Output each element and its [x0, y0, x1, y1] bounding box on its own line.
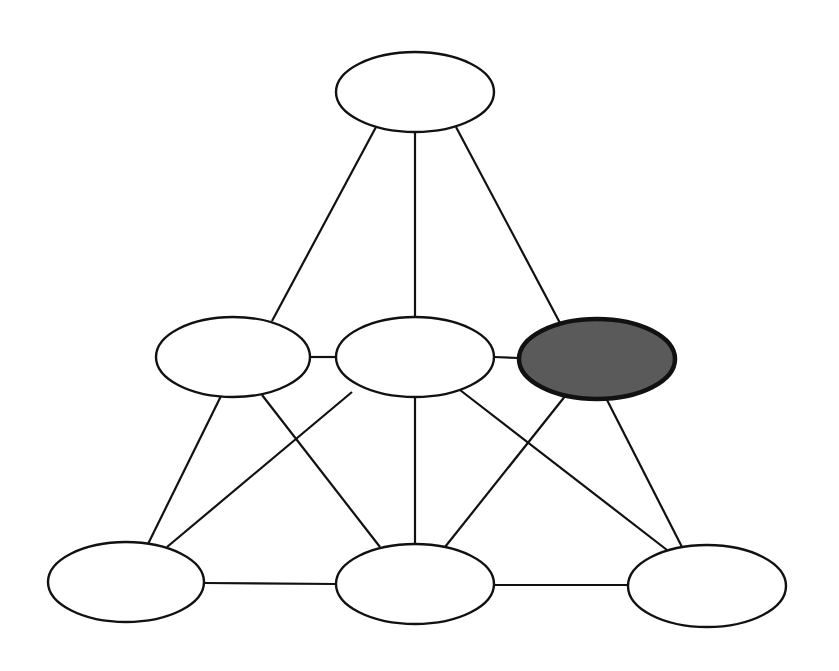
node-mid-right [519, 319, 675, 399]
diagram-canvas [0, 0, 839, 671]
node-mid-center [336, 317, 494, 397]
node-mid-left [156, 317, 310, 397]
edge-mid-center-bottom-right [460, 390, 667, 550]
node-bottom-left [48, 542, 204, 622]
node-layer [48, 52, 786, 627]
edge-mid-center-bottom-left [167, 392, 352, 547]
edge-top-mid-right [456, 127, 560, 323]
edge-mid-right-bottom-right [606, 398, 682, 547]
node-bottom-center [336, 544, 494, 624]
edge-bottom-left-bottom-center [204, 583, 336, 584]
edge-mid-right-bottom-center [445, 395, 566, 547]
network-diagram [0, 0, 839, 671]
node-bottom-right [628, 545, 786, 627]
node-top [336, 52, 494, 132]
edge-mid-left-bottom-left [148, 396, 221, 544]
edge-mid-center-mid-right [494, 357, 519, 358]
edge-top-mid-left [272, 127, 376, 321]
